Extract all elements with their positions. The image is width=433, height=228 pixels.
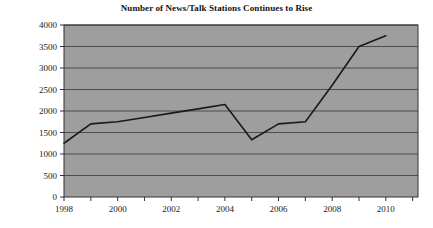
x-tick-label: 2002 xyxy=(162,204,180,214)
x-tick-label: 2000 xyxy=(109,204,128,214)
y-tick-label: 0 xyxy=(53,192,58,202)
x-tick-label: 1998 xyxy=(55,204,74,214)
line-chart-plot: 05001000150020002500300035004000 1998200… xyxy=(0,0,433,228)
x-tick-label: 2008 xyxy=(323,204,342,214)
y-tick-label: 1500 xyxy=(39,128,58,138)
y-tick-label: 4000 xyxy=(39,20,58,30)
y-tick-marks xyxy=(60,25,64,197)
chart-figure: Number of News/Talk Stations Continues t… xyxy=(0,0,433,228)
x-tick-label: 2010 xyxy=(377,204,396,214)
x-tick-label: 2006 xyxy=(270,204,289,214)
x-tick-label: 2004 xyxy=(216,204,235,214)
y-tick-label: 3500 xyxy=(39,42,58,52)
y-tick-label: 3000 xyxy=(39,63,58,73)
x-tick-labels: 1998200020022004200620082010 xyxy=(55,204,395,214)
y-tick-labels: 05001000150020002500300035004000 xyxy=(39,20,58,202)
y-tick-label: 2000 xyxy=(39,106,58,116)
x-tick-marks xyxy=(64,197,413,201)
y-tick-label: 500 xyxy=(44,171,58,181)
y-tick-label: 1000 xyxy=(39,149,58,159)
y-tick-label: 2500 xyxy=(39,85,58,95)
